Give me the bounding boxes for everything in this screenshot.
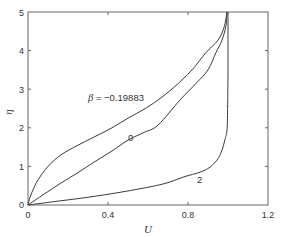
x-ticks [108,12,188,205]
x-axis-label: U [144,223,153,235]
annotation-beta: β = −0.19883 [87,92,144,103]
x-tick-label: 0 [25,210,30,220]
x-tick-label: 0.8 [182,210,195,220]
plot-frame [28,12,268,205]
annotation-zero: 0 [128,132,133,143]
beta-value: = −0.19883 [93,92,144,103]
y-tick-label: 1 [19,162,24,172]
y-tick-label: 3 [19,85,24,95]
chart: 0 0.4 0.8 1.2 0 1 2 3 4 5 U η β = −0.198… [0,0,287,237]
y-tick-label: 5 [19,8,24,18]
annotation-two: 2 [197,174,202,185]
y-axis-label: η [2,109,14,114]
y-tick-label: 4 [19,46,24,56]
y-tick-label: 2 [19,123,24,133]
y-ticks [28,51,268,167]
x-tick-label: 0.4 [102,210,115,220]
y-tick-label: 0 [19,200,24,210]
x-tick-label: 1.2 [262,210,275,220]
